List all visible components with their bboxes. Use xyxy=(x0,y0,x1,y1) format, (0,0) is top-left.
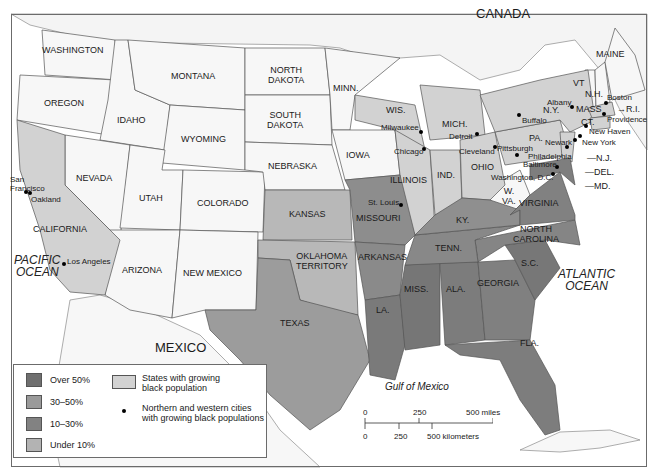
label-mississippi: MISS. xyxy=(404,284,429,294)
scale-miles-500: 500 miles xyxy=(466,408,500,417)
label-georgia: GEORGIA xyxy=(477,278,519,288)
city-dot-pittsburgh xyxy=(515,153,519,157)
label-delaware: —DEL. xyxy=(585,167,614,177)
scale-miles-250: 250 xyxy=(413,408,426,417)
city-label-san-francisco: SanFrancisco xyxy=(10,175,45,193)
nj-text: N.J. xyxy=(596,153,612,163)
del-text: DEL. xyxy=(594,167,614,177)
scale-miles-0: 0 xyxy=(363,408,367,417)
pacific-line2: OCEAN xyxy=(14,266,60,278)
label-mexico: MEXICO xyxy=(155,340,206,355)
label-nebraska: NEBRASKA xyxy=(268,161,317,171)
city-label-oakland: Oakland xyxy=(31,195,61,204)
label-montana: MONTANA xyxy=(171,71,215,81)
label-wyoming: WYOMING xyxy=(181,134,226,144)
label-south-dakota: SOUTHDAKOTA xyxy=(267,110,303,130)
label-vermont: VT xyxy=(573,78,585,88)
label-colorado: COLORADO xyxy=(197,198,249,208)
city-dot-detroit xyxy=(475,132,479,136)
legend-label-under-10: Under 10% xyxy=(50,440,95,450)
growing-line2: black population xyxy=(142,383,220,393)
label-tennessee: TENN. xyxy=(435,243,462,253)
city-label-baltimore: Baltimore xyxy=(523,160,557,169)
label-new-hampshire: N.H. xyxy=(585,89,603,99)
label-washington: WASHINGTON xyxy=(42,45,104,55)
label-wisconsin: WIS. xyxy=(386,105,406,115)
label-rhode-island: →R.I. xyxy=(617,104,640,114)
label-virginia: VIRGINIA xyxy=(519,198,559,208)
label-pacific-ocean: PACIFIC OCEAN xyxy=(14,254,60,278)
city-label-new-haven: New Haven xyxy=(589,127,630,136)
label-maryland: —MD. xyxy=(585,181,611,191)
city-label-chicago: Chicago xyxy=(394,147,423,156)
label-north-carolina: NORTHCAROLINA xyxy=(513,224,559,244)
label-arizona: ARIZONA xyxy=(122,265,162,275)
legend-label-cities: Northern and western cities with growing… xyxy=(142,403,264,423)
label-west-virginia: W.VA. xyxy=(502,186,516,206)
label-alabama: ALA. xyxy=(446,284,466,294)
legend-label-10-30: 10–30% xyxy=(50,419,83,429)
legend-swatch-growing-states xyxy=(112,375,136,389)
label-canada: CANADA xyxy=(476,6,530,21)
label-utah: UTAH xyxy=(139,193,163,203)
city-label-albany: Albany xyxy=(547,98,571,107)
label-michigan: MICH. xyxy=(442,119,468,129)
label-new-jersey: —N.J. xyxy=(587,153,612,163)
city-dot-newark xyxy=(573,138,577,142)
label-gulf-of-mexico: Gulf of Mexico xyxy=(385,381,449,393)
label-oregon: OREGON xyxy=(44,98,84,108)
city-dot-st-louis xyxy=(399,203,403,207)
label-indiana: IND. xyxy=(437,170,455,180)
label-new-mexico: NEW MEXICO xyxy=(183,268,242,278)
legend-label-30-50: 30–50% xyxy=(50,397,83,407)
label-nevada: NEVADA xyxy=(76,173,112,183)
city-dot-providence xyxy=(602,112,606,116)
label-iowa: IOWA xyxy=(346,150,370,160)
city-label-st-louis: St. Louis xyxy=(368,198,399,207)
label-illinois: ILLINOIS xyxy=(390,175,427,185)
label-pennsylvania: PA. xyxy=(529,133,543,143)
label-atlantic-ocean: ATLANTIC OCEAN xyxy=(558,268,615,292)
legend-swatch-under-10 xyxy=(26,438,42,452)
label-maine: MAINE xyxy=(596,49,625,59)
legend-city-dot-icon xyxy=(122,409,126,413)
legend-swatch-10-30 xyxy=(26,417,42,431)
label-kansas: KANSAS xyxy=(289,209,326,219)
city-label-providence: Providence xyxy=(607,115,647,124)
city-label-washington-dc: Washington, D.C. xyxy=(491,173,553,182)
legend-swatch-over-50 xyxy=(26,373,42,387)
label-california: CALIFORNIA xyxy=(33,224,87,234)
label-texas: TEXAS xyxy=(280,318,310,328)
city-label-los-angeles: Los Angeles xyxy=(67,257,111,266)
label-louisiana: LA. xyxy=(376,305,390,315)
cities-line1: Northern and western cities xyxy=(142,403,264,413)
atlantic-line2: OCEAN xyxy=(558,280,615,292)
growing-line1: States with growing xyxy=(142,373,220,383)
ri-text: R.I. xyxy=(626,104,640,114)
label-idaho: IDAHO xyxy=(117,115,146,125)
scale-km-0: 0 xyxy=(363,432,367,441)
city-label-buffalo: Buffalo xyxy=(522,116,547,125)
legend-label-growing-states: States with growing black population xyxy=(142,373,220,393)
label-florida: FLA. xyxy=(520,338,539,348)
city-label-cleveland: Cleveland xyxy=(459,147,495,156)
city-dot-los-angeles xyxy=(62,262,66,266)
legend: Over 50% 30–50% 10–30% Under 10% States … xyxy=(13,364,267,458)
label-oklahoma: OKLAHOMATERRITORY xyxy=(296,251,348,271)
label-north-dakota: NORTHDAKOTA xyxy=(268,65,304,85)
label-minnesota: MINN. xyxy=(333,83,359,93)
label-ohio: OHIO xyxy=(471,162,494,172)
label-missouri: MISSOURI xyxy=(356,213,401,223)
legend-swatch-30-50 xyxy=(26,395,42,409)
label-massachusetts: MASS xyxy=(576,104,602,114)
city-dot-milwaukee xyxy=(419,130,423,134)
scale-bar-lines xyxy=(363,418,493,432)
scale-km-250: 250 xyxy=(394,432,407,441)
cities-line2: with growing black populations xyxy=(142,413,264,423)
city-dot-philadelphia xyxy=(565,145,569,149)
city-label-boston: Boston xyxy=(607,93,632,102)
label-kentucky: KY. xyxy=(456,215,469,225)
city-dot-new-haven xyxy=(584,124,588,128)
legend-label-over-50: Over 50% xyxy=(50,375,90,385)
label-south-carolina: S.C. xyxy=(521,258,539,268)
